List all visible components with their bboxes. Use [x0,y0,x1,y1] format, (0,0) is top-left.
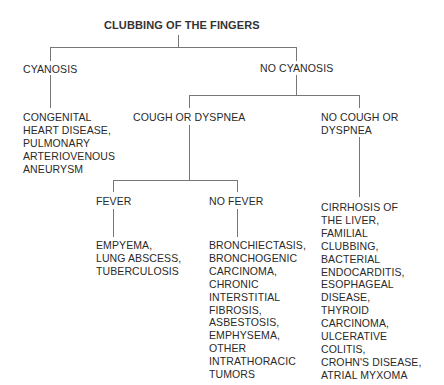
connector-line [113,180,238,181]
connector-line [359,95,360,108]
connector-line [113,209,114,237]
connector-line [189,95,360,96]
node-fever: FEVER [96,195,132,208]
node-no-fever: NO FEVER [209,195,263,208]
connector-line [189,95,190,108]
node-no-fever-causes: BRONCHIECTASIS, BRONCHOGENIC CARCINOMA, … [209,239,306,381]
connector-line [50,47,297,48]
connector-line [237,180,238,192]
node-cyanosis-causes: CONGENITAL HEART DISEASE, PULMONARY ARTE… [23,111,115,176]
node-no-cough-or-dyspnea: NO COUGH OR DYSPNEA [321,111,399,137]
node-no-cyanosis: NO CYANOSIS [260,62,333,75]
connector-line [296,75,297,95]
node-no-cough-causes: CIRRHOSIS OF THE LIVER, FAMILIAL CLUBBIN… [321,201,421,382]
node-cough-or-dyspnea: COUGH OR DYSPNEA [133,111,245,124]
connector-line [50,75,51,108]
connector-line [50,47,51,61]
node-fever-causes: EMPYEMA, LUNG ABSCESS, TUBERCULOSIS [96,239,181,278]
connector-line [178,35,179,47]
connector-line [296,47,297,61]
connector-line [113,180,114,192]
connector-line [359,137,360,197]
diagram-title: CLUBBING OF THE FINGERS [104,19,260,32]
node-cyanosis: CYANOSIS [23,63,77,76]
connector-line [237,209,238,237]
connector-line [189,125,190,180]
